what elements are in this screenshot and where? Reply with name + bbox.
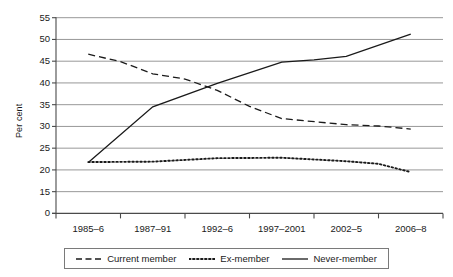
legend-label: Current member	[107, 254, 176, 264]
legend-line-dashed-icon	[76, 255, 102, 263]
legend-label: Never-member	[313, 254, 376, 264]
x-tick-label: 2006–8	[371, 224, 451, 234]
legend-line-solid-icon	[282, 255, 308, 263]
series-line-never-member	[88, 34, 411, 162]
series-line-current-member	[88, 54, 411, 129]
legend-label: Ex-member	[220, 254, 269, 264]
legend: Current memberEx-memberNever-member	[64, 248, 389, 269]
line-chart: Per cent 0152025303540455055 1985–61987–…	[0, 0, 453, 277]
legend-item[interactable]: Ex-member	[189, 254, 269, 264]
plot-area	[0, 0, 453, 277]
legend-item[interactable]: Current member	[76, 254, 176, 264]
legend-item[interactable]: Never-member	[282, 254, 376, 264]
legend-line-dotted-icon	[189, 255, 215, 263]
